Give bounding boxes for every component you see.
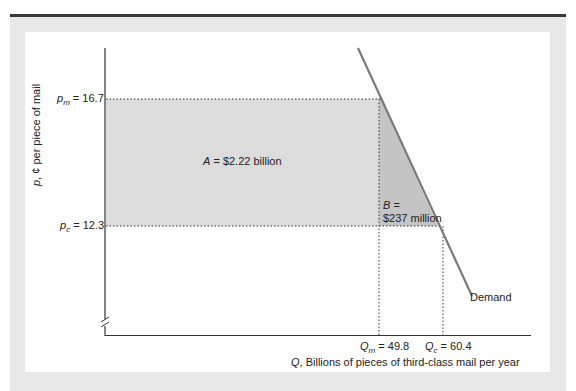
y-tick-pm-value: 16.7 (82, 92, 103, 104)
y-axis-label-text: , ¢ per piece of mail (30, 84, 42, 180)
y-tick-pm-eq: = (70, 92, 83, 104)
y-tick-pc-value: 12.3 (83, 219, 104, 231)
region-a-label-text: = $2.22 billion (210, 155, 281, 167)
y-tick-pc: pc = 12.3 (60, 219, 104, 232)
x-tick-qc: Qc = 60.4 (425, 340, 472, 353)
demand-label: Demand (470, 291, 512, 304)
x-axis-label-text: , Billions of pieces of third-class mail… (300, 356, 520, 368)
region-b-label-line2: $237 million (383, 212, 442, 225)
y-axis-label-var: p (30, 180, 42, 186)
region-a-label: A = $2.22 billion (203, 155, 282, 168)
x-tick-qc-value: 60.4 (450, 340, 471, 352)
region-b-label-eq: = (390, 199, 399, 211)
x-axis-label-var: Q (291, 356, 300, 368)
x-tick-qm-value: 49.8 (388, 340, 409, 352)
x-axis-label: Q, Billions of pieces of third-class mai… (291, 356, 520, 369)
x-tick-qc-symbol: Q (425, 340, 434, 352)
x-tick-qm-eq: = (375, 340, 388, 352)
y-tick-pm-sub: m (63, 98, 70, 107)
x-tick-qm: Qm = 49.8 (360, 340, 409, 353)
region-b-label-line1: B = (383, 199, 400, 212)
y-axis-label: p, ¢ per piece of mail (30, 84, 42, 186)
y-tick-pc-eq: = (70, 219, 83, 231)
y-tick-pm: pm = 16.7 (57, 92, 104, 105)
x-tick-qc-eq: = (438, 340, 451, 352)
chart-svg (0, 0, 576, 391)
x-tick-qm-symbol: Q (360, 340, 369, 352)
